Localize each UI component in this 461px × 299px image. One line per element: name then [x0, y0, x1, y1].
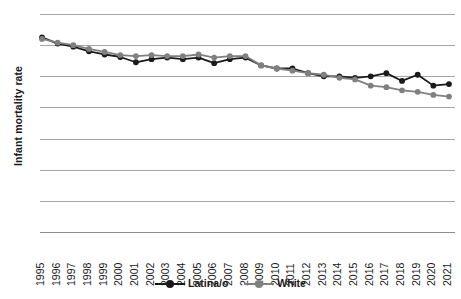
legend-label: White — [277, 277, 306, 289]
data-point — [368, 83, 374, 89]
data-point — [383, 84, 389, 90]
legend-swatch-icon — [244, 278, 274, 288]
data-point — [243, 53, 249, 59]
data-point — [352, 77, 358, 83]
data-point — [415, 89, 421, 95]
gridline-0 — [40, 232, 455, 233]
series-lines — [40, 14, 455, 232]
data-point — [321, 72, 327, 78]
data-point — [117, 52, 123, 58]
data-point — [133, 59, 139, 65]
data-point — [149, 52, 155, 58]
data-point — [180, 53, 186, 59]
data-point — [368, 73, 374, 79]
data-point — [430, 83, 436, 89]
data-point — [446, 94, 452, 100]
data-point — [102, 49, 108, 55]
data-point — [211, 60, 217, 66]
data-point — [55, 40, 61, 46]
data-point — [305, 70, 311, 76]
data-point — [86, 46, 92, 52]
legend-swatch-icon — [155, 278, 185, 288]
data-point — [39, 36, 45, 42]
data-point — [258, 62, 264, 68]
data-point — [383, 70, 389, 76]
y-axis-title: Infant mortality rate — [12, 41, 24, 191]
legend-item-white: White — [244, 277, 306, 289]
data-point — [290, 68, 296, 74]
plot-area — [40, 14, 455, 232]
legend-item-latina-o: Latina/o — [155, 277, 228, 289]
data-point — [196, 52, 202, 58]
data-point — [446, 81, 452, 87]
data-point — [164, 53, 170, 59]
legend-label: Latina/o — [188, 277, 228, 289]
data-point — [211, 55, 217, 61]
data-point — [415, 72, 421, 78]
data-point — [399, 87, 405, 93]
data-point — [133, 53, 139, 59]
chart-legend: Latina/oWhite — [0, 277, 461, 289]
data-point — [430, 92, 436, 98]
line-latina-o — [42, 37, 449, 85]
data-point — [399, 78, 405, 84]
data-point — [70, 42, 76, 48]
data-point — [227, 53, 233, 59]
infant-mortality-rate-line-chart: Infant mortality rate 76543210 199519961… — [0, 0, 461, 299]
data-point — [337, 75, 343, 81]
data-point — [274, 66, 280, 72]
